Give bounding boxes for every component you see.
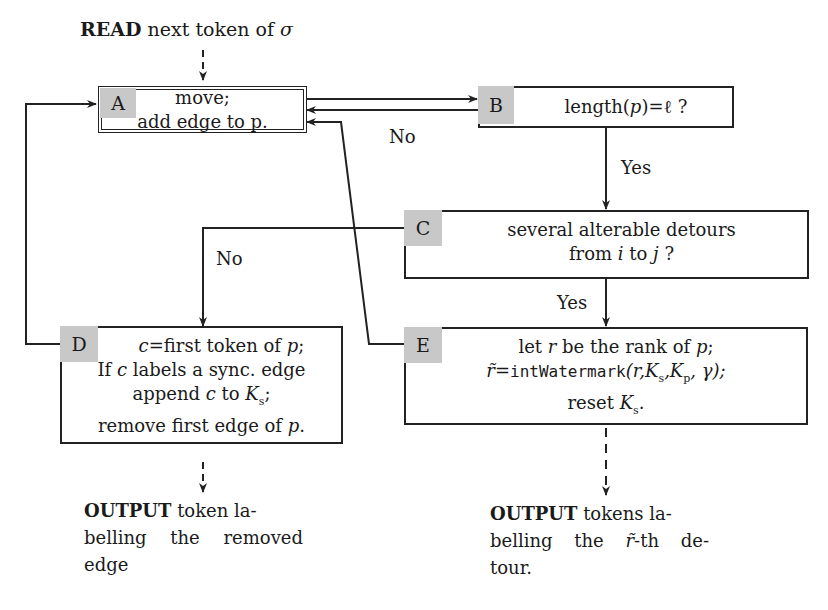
step-d-box: D c=first token of p; If c labels a sync… [60,326,343,444]
step-a-text: move; add edge to p. [102,86,303,134]
step-b-tag: B [478,86,514,124]
c-yes-label: Yes [557,292,587,313]
step-b-text: length(p)=ℓ ? [520,95,732,119]
step-c-text: several alterable detours from i to j ? [436,218,807,266]
step-e-box: E let r be the rank of p; r̃=intWatermar… [404,327,808,425]
step-d-text: c=first token of p; If c labels a sync. … [62,334,341,438]
step-c-box: C several alterable detours from i to j … [404,210,809,279]
b-yes-label: Yes [621,157,651,178]
output-keyword: OUTPUT [490,503,577,524]
output-keyword: OUTPUT [84,500,171,521]
read-keyword: READ [80,18,142,40]
step-e-text: let r be the rank of p; r̃=intWatermark(… [406,335,806,422]
c-no-label: No [216,248,243,269]
step-a-box: A move; add edge to p. [98,86,307,133]
step-b-box: B length(p)=ℓ ? [478,86,734,128]
read-instruction: READ next token of σ [80,18,293,40]
output-right: OUTPUT tokens la- belling the r̃-th de- … [490,500,724,581]
output-left: OUTPUT token la- belling the removed edg… [84,497,318,578]
b-no-label: No [389,126,416,147]
